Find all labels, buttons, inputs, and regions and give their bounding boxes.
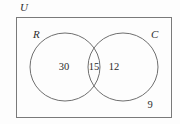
venn-diagram-figure: U R C 30 15 12 9 — [0, 0, 180, 124]
set-label-r: R — [33, 29, 40, 40]
universe-label: U — [20, 2, 28, 13]
region-count-outside: 9 — [143, 100, 157, 111]
region-count-intersection: 15 — [85, 62, 103, 73]
region-count-c-only: 12 — [105, 62, 123, 73]
region-count-r-only: 30 — [54, 62, 74, 73]
set-label-c: C — [151, 29, 158, 40]
